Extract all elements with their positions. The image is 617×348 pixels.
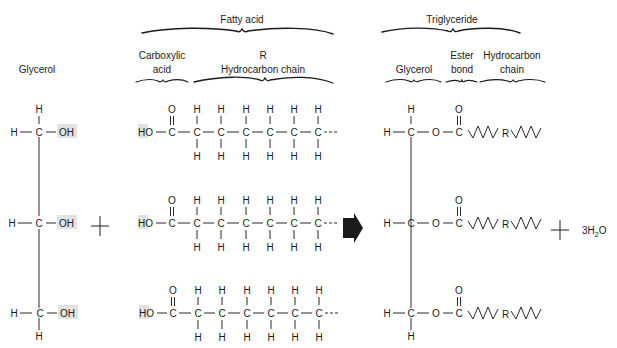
zigzag-chain <box>468 307 498 319</box>
svg-text:H: H <box>8 218 15 229</box>
svg-text:H: H <box>383 308 390 319</box>
glycerol-product-label: Glycerol <box>396 64 433 75</box>
svg-text:H: H <box>194 285 201 296</box>
reaction-arrow-icon <box>343 213 363 243</box>
svg-text:H: H <box>314 242 321 253</box>
fatty-acid-brace <box>142 28 333 34</box>
svg-text:H: H <box>291 285 298 296</box>
hydroxyl-group: OH <box>60 308 75 319</box>
svg-text:H: H <box>218 285 225 296</box>
svg-text:O: O <box>455 195 463 206</box>
svg-text:C: C <box>218 308 225 319</box>
svg-text:H: H <box>243 285 250 296</box>
svg-text:R: R <box>502 219 509 230</box>
svg-text:O: O <box>432 127 440 138</box>
zigzag-chain <box>468 126 498 138</box>
ester-row-3: H C O C O R <box>383 285 541 320</box>
glycerol-molecule: H H H C OH H C OH H C <box>8 104 78 342</box>
svg-text:O: O <box>169 285 177 296</box>
glycerol-row-1: H C OH <box>10 124 77 138</box>
svg-text:R: R <box>502 309 509 320</box>
zigzag-chain <box>468 217 498 229</box>
svg-text:H: H <box>193 195 200 206</box>
svg-text:H: H <box>267 285 274 296</box>
svg-text:HO: HO <box>138 127 153 138</box>
svg-text:C: C <box>35 127 42 138</box>
svg-text:C: C <box>168 127 175 138</box>
svg-text:H: H <box>290 151 297 162</box>
svg-text:C: C <box>242 127 249 138</box>
svg-text:C: C <box>267 308 274 319</box>
svg-text:H: H <box>291 332 298 343</box>
plus-sign-right <box>551 220 569 240</box>
svg-text:C: C <box>243 308 250 319</box>
svg-text:H: H <box>383 218 390 229</box>
svg-text:H: H <box>242 104 249 115</box>
svg-text:H: H <box>217 151 224 162</box>
svg-text:H: H <box>314 195 321 206</box>
svg-text:C: C <box>314 127 321 138</box>
hydrocarbon-chain-brace <box>194 77 333 83</box>
svg-text:C: C <box>266 218 273 229</box>
svg-text:C: C <box>455 127 462 138</box>
svg-text:O: O <box>168 195 176 206</box>
svg-text:H: H <box>242 242 249 253</box>
chain-carbons: C H H C H H C H H C H H C H H C H <box>193 104 339 162</box>
svg-text:C: C <box>290 218 297 229</box>
hydrocarbon-chain-label: Hydrocarbon chain <box>221 64 305 75</box>
svg-text:H: H <box>193 242 200 253</box>
fatty-acid-3: HO C O C H H C H H C H H C H H C <box>139 285 340 343</box>
water-product: 3H2O <box>582 225 607 238</box>
svg-text:H: H <box>266 195 273 206</box>
svg-text:H: H <box>217 195 224 206</box>
svg-text:C: C <box>217 127 224 138</box>
svg-text:H: H <box>217 242 224 253</box>
ester-row-2: H C O C O R <box>383 195 541 230</box>
svg-text:C: C <box>407 127 414 138</box>
svg-text:H: H <box>194 332 201 343</box>
carboxylic-acid-label-line1: Carboxylic <box>139 50 186 61</box>
svg-text:C: C <box>455 308 462 319</box>
ester-bond-label-line1: Ester <box>450 50 474 61</box>
svg-text:H: H <box>266 151 273 162</box>
fatty-acid-1: HO C O C H H C H H C H H C H H C <box>138 104 339 162</box>
svg-text:H: H <box>243 332 250 343</box>
svg-text:H: H <box>383 127 390 138</box>
svg-text:C: C <box>35 218 42 229</box>
carboxylic-acid-brace <box>136 80 188 82</box>
fatty-acid-header: Fatty acid <box>220 14 263 25</box>
svg-text:H: H <box>35 104 42 115</box>
fatty-acid-2: HO C O C H H C H H C H H C H H C <box>138 195 339 253</box>
svg-text:C: C <box>314 218 321 229</box>
svg-text:H: H <box>10 127 17 138</box>
svg-text:H: H <box>242 195 249 206</box>
triglyceride-molecule: H H H C O C O R H C O C O <box>383 104 541 342</box>
svg-text:H: H <box>407 104 414 115</box>
zigzag-chain <box>511 126 541 138</box>
triglyceride-formation-diagram: Fatty acid Triglyceride Glycerol Carboxy… <box>0 0 617 348</box>
svg-text:C: C <box>291 308 298 319</box>
svg-text:HO: HO <box>139 308 154 319</box>
hydrocarbon-chain-product-brace <box>480 80 545 82</box>
svg-text:O: O <box>455 104 463 115</box>
svg-text:H: H <box>315 332 322 343</box>
glycerol-label: Glycerol <box>19 64 56 75</box>
triglyceride-header: Triglyceride <box>426 14 478 25</box>
svg-text:H: H <box>266 104 273 115</box>
hydrocarbon-chain-product-label-line1: Hydrocarbon <box>483 50 540 61</box>
svg-text:H: H <box>315 285 322 296</box>
svg-text:H: H <box>218 332 225 343</box>
ester-bond-brace <box>446 80 477 82</box>
plus-sign-left <box>91 216 109 236</box>
glycerol-row-3: H C OH <box>10 305 78 319</box>
svg-text:C: C <box>194 308 201 319</box>
svg-text:C: C <box>36 308 43 319</box>
svg-text:C: C <box>266 127 273 138</box>
chain-carbons: C H H C H H C H H C H H C H H C H <box>193 195 339 253</box>
glycerol-row-2: H C OH <box>8 215 77 229</box>
triglyceride-brace <box>382 28 520 33</box>
zigzag-chain <box>511 307 541 319</box>
ester-bond-label-line2: bond <box>451 64 473 75</box>
svg-text:C: C <box>290 127 297 138</box>
svg-text:H: H <box>35 331 42 342</box>
